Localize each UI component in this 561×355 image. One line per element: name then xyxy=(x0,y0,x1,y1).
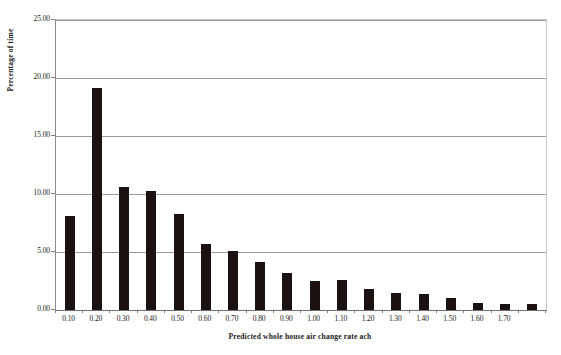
y-axis-tick-mark xyxy=(51,309,55,310)
bar xyxy=(65,216,75,310)
bar xyxy=(174,214,184,310)
x-axis-tick-label: 1.30 xyxy=(381,314,409,323)
x-axis-tick-mark xyxy=(545,310,546,313)
plot-area xyxy=(55,19,547,311)
y-axis-tick-mark xyxy=(51,77,55,78)
bar xyxy=(310,281,320,310)
x-axis-tick-label: 1.20 xyxy=(354,314,382,323)
y-axis-tick-mark xyxy=(51,19,55,20)
x-axis-tick-label: 0.40 xyxy=(136,314,164,323)
y-axis-tick-mark xyxy=(51,251,55,252)
x-axis-tick-mark xyxy=(273,310,274,313)
bar xyxy=(92,88,102,310)
y-axis-tick-label: 20.00 xyxy=(22,73,50,81)
x-axis-tick-label: 1.50 xyxy=(436,314,464,323)
bars-layer xyxy=(56,20,546,310)
x-axis-tick-mark xyxy=(491,310,492,313)
x-axis-tick-label: 1.40 xyxy=(409,314,437,323)
x-axis-tick-label: 0.90 xyxy=(272,314,300,323)
x-axis-tick-mark xyxy=(55,310,56,313)
y-axis-tick-label: 10.00 xyxy=(22,189,50,197)
x-axis-tick-label: 0.20 xyxy=(82,314,110,323)
bar xyxy=(337,280,347,310)
y-axis-tick-label: 25.00 xyxy=(22,15,50,23)
x-axis-tick-mark xyxy=(518,310,519,313)
x-axis-tick-label: 1.00 xyxy=(300,314,328,323)
y-axis-tick-label: 5.00 xyxy=(22,247,50,255)
bar-chart-figure: Percentage of time 0.005.0010.0015.0020.… xyxy=(0,0,561,355)
y-axis-tick-label: 0.00 xyxy=(22,305,50,313)
bar xyxy=(146,191,156,310)
x-axis-tick-label: 0.30 xyxy=(109,314,137,323)
bar xyxy=(364,289,374,310)
x-axis-tick-mark xyxy=(137,310,138,313)
y-axis-tick-mark xyxy=(51,135,55,136)
x-axis-tick-labels: 0.100.200.300.400.500.600.700.800.901.00… xyxy=(55,314,545,326)
x-axis-tick-label: 0.50 xyxy=(164,314,192,323)
x-axis-tick-mark xyxy=(164,310,165,313)
bar xyxy=(446,298,456,310)
x-axis-tick-mark xyxy=(409,310,410,313)
bar xyxy=(391,293,401,310)
x-axis-tick-label: 0.70 xyxy=(218,314,246,323)
x-axis-tick-label: 0.80 xyxy=(245,314,273,323)
x-axis-tick-mark xyxy=(218,310,219,313)
x-axis-tick-mark xyxy=(382,310,383,313)
x-axis-tick-mark xyxy=(354,310,355,313)
y-axis-title: Percentage of time xyxy=(6,0,15,120)
x-axis-tick-mark xyxy=(109,310,110,313)
bar xyxy=(282,273,292,310)
x-axis-tick-mark xyxy=(246,310,247,313)
bar xyxy=(228,251,238,310)
x-axis-tick-label: 0.60 xyxy=(191,314,219,323)
bar xyxy=(119,187,129,310)
bar xyxy=(419,294,429,310)
x-axis-tick-label: 1.60 xyxy=(463,314,491,323)
y-axis-tick-labels: 0.005.0010.0015.0020.0025.00 xyxy=(22,0,50,355)
x-axis-tick-label: 1.10 xyxy=(327,314,355,323)
y-axis-tick-label: 15.00 xyxy=(22,131,50,139)
x-axis-tick-mark xyxy=(327,310,328,313)
x-axis-tick-mark xyxy=(191,310,192,313)
x-axis-tick-mark xyxy=(82,310,83,313)
x-axis-tick-mark xyxy=(300,310,301,313)
bar xyxy=(255,262,265,310)
x-axis-tick-mark xyxy=(463,310,464,313)
y-axis-tick-mark xyxy=(51,193,55,194)
x-axis-tick-label: 0.10 xyxy=(55,314,83,323)
x-axis-title: Predicted whole house air change rate ac… xyxy=(55,332,545,341)
bar xyxy=(473,303,483,310)
bar xyxy=(201,244,211,310)
x-axis-tick-mark xyxy=(436,310,437,313)
x-axis-tick-label: 1.70 xyxy=(490,314,518,323)
